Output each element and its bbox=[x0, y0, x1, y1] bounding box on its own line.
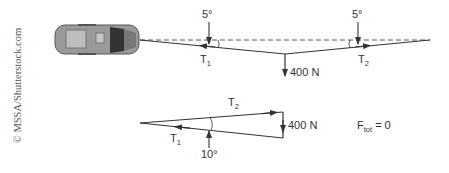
car-icon bbox=[55, 24, 139, 55]
tension-label-t1: T1 bbox=[200, 53, 211, 68]
vector-weight-label: 400 N bbox=[288, 119, 317, 131]
vector-triangle bbox=[140, 112, 283, 148]
force-diagram bbox=[0, 0, 449, 173]
rope-line bbox=[140, 40, 430, 54]
t1-vector-arrow bbox=[175, 127, 190, 129]
angle-label-left: 5° bbox=[202, 8, 213, 20]
equilibrium-equation: Ftot = 0 bbox=[357, 119, 391, 134]
angle-label-right: 5° bbox=[352, 8, 363, 20]
angle-arc-bottom bbox=[210, 118, 212, 131]
vector-angle-label: 10° bbox=[201, 148, 218, 160]
t2-arrow bbox=[355, 46, 370, 48]
angle-arc-right bbox=[349, 40, 350, 48]
vector-label-t1: T1 bbox=[170, 132, 181, 147]
t1-arrow bbox=[200, 46, 215, 48]
t2-vector-arrow bbox=[262, 112, 277, 113]
angle-arc-left bbox=[218, 40, 219, 48]
tension-label-t2: T2 bbox=[358, 53, 369, 68]
weight-label: 400 N bbox=[290, 66, 319, 78]
vector-label-t2: T2 bbox=[228, 96, 239, 111]
